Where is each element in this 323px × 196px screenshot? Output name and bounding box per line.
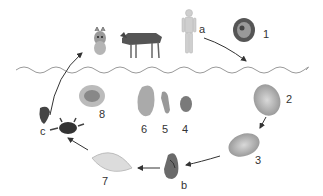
label-5: 5 (162, 124, 168, 135)
label-3: 3 (255, 155, 261, 166)
label-7: 7 (102, 176, 108, 187)
wolf-icon (120, 32, 162, 58)
human-figure-icon (182, 10, 196, 54)
water-line (16, 67, 309, 73)
label-4: 4 (182, 124, 188, 135)
redia-icon-5 (161, 92, 170, 114)
redia-icon-6 (138, 85, 155, 116)
metacercaria-icon (79, 85, 105, 107)
cat-icon (94, 27, 106, 55)
label-1: 1 (263, 29, 269, 40)
label-2: 2 (286, 94, 292, 105)
label-a: a (199, 24, 205, 35)
lifecycle-diagram: a 1 2 3 4 5 6 7 8 b c (0, 0, 323, 196)
label-6: 6 (141, 124, 147, 135)
label-b: b (181, 180, 187, 191)
sporocyst-icon (180, 96, 192, 112)
cercaria-icon (92, 153, 132, 171)
label-8: 8 (99, 109, 105, 120)
egg-icon-2 (249, 81, 284, 120)
crab-icon (50, 118, 84, 134)
label-c: c (40, 126, 46, 137)
egg-icon-1 (233, 18, 255, 42)
snail-icon (164, 153, 178, 179)
crayfish-icon (40, 107, 51, 124)
